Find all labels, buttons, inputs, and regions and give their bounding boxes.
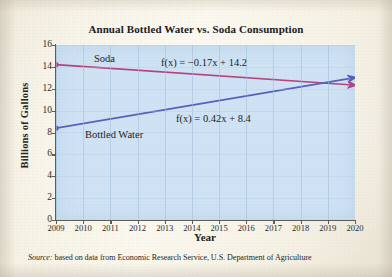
equation-label-bottled-water: f(x) = 0.42x + 8.4 [176,113,251,124]
x-tick-mark [273,220,274,224]
y-tick-label: 4 [28,170,52,180]
source-text: based on data from Economic Research Ser… [53,253,312,262]
y-tick-label: 10 [28,105,52,115]
figure-page: Annual Bottled Water vs. Soda Consumptio… [0,0,392,277]
x-tick-mark [219,220,220,224]
y-tick-label: 8 [28,127,52,137]
y-tick-label: 2 [28,192,52,202]
x-tick-mark [246,220,247,224]
y-tick-mark [52,154,56,155]
y-tick-label: 16 [28,39,52,49]
y-tick-mark [52,67,56,68]
y-tick-label: 12 [28,83,52,93]
x-tick-mark [165,220,166,224]
page-title: Annual Bottled Water vs. Soda Consumptio… [0,23,392,35]
series-label-soda: Soda [94,53,115,64]
source-prefix: Source: [28,253,53,262]
x-axis-line [55,220,356,221]
x-tick-mark [355,220,356,224]
equation-label-soda: f(x) = −0.17x + 14.2 [161,57,247,68]
y-tick-label: 14 [28,61,52,71]
x-tick-mark [328,220,329,224]
x-tick-mark [138,220,139,224]
x-tick-mark [110,220,111,224]
x-tick-mark [192,220,193,224]
y-tick-mark [52,45,56,46]
y-tick-mark [52,111,56,112]
source-note: Source: based on data from Economic Rese… [28,253,378,262]
y-tick-label: 6 [28,148,52,158]
x-tick-mark [301,220,302,224]
series-label-bottled-water: Bottled Water [85,129,143,140]
y-tick-mark [52,133,56,134]
y-tick-mark [52,89,56,90]
x-tick-mark [83,220,84,224]
y-tick-mark [52,176,56,177]
y-tick-mark [52,198,56,199]
x-tick-label: 2020 [338,223,372,233]
x-tick-mark [56,220,57,224]
